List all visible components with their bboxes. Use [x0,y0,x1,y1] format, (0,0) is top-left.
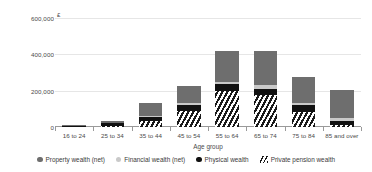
bar-segment [139,103,163,116]
legend-item-label: Physical wealth [205,156,249,163]
x-axis-tick-mark [323,127,324,131]
x-axis-tick-mark [170,127,171,131]
y-axis-tick-label: 400,000 [12,51,54,58]
bar-slot [246,18,284,127]
bar-segment [292,112,316,127]
legend-item-label: Financial wealth (net) [124,156,185,163]
bar-segment [292,77,316,102]
bar-slot [55,18,93,127]
x-axis-title: Age group [55,143,361,150]
bar-slot [93,18,131,127]
chart-legend: Property wealth (net)Financial wealth (n… [0,156,372,163]
x-axis-tick-label: 85 and over [323,132,361,139]
x-axis-tick-mark [132,127,133,131]
x-axis-tick-label: 35 to 44 [132,132,170,139]
y-axis-tick-label: 600,000 [12,15,54,22]
x-axis-tick-mark [55,127,56,131]
y-axis-currency-symbol: £ [57,11,60,18]
stacked-bar[interactable] [292,77,316,127]
bar-slot [285,18,323,127]
legend-dot-icon-financial [116,157,122,163]
legend-item[interactable]: Private pension wealth [260,156,335,163]
bar-slot [170,18,208,127]
legend-dot-icon-physical [196,157,202,163]
x-axis-tick-mark [246,127,247,131]
x-axis-tick-mark [93,127,94,131]
x-axis-tick-label: 65 to 74 [246,132,284,139]
legend-item[interactable]: Financial wealth (net) [116,156,185,163]
stacked-bar[interactable] [215,51,239,127]
bar-segment [215,51,239,82]
bar-segment [177,86,201,103]
legend-item-label: Private pension wealth [271,156,335,163]
wealth-by-age-group-chart: £ 0200,000400,000600,000 16 to 2425 to 3… [0,0,372,172]
bar-segment [215,91,239,127]
stacked-bar[interactable] [254,51,278,127]
bar-segment [177,111,201,127]
legend-item[interactable]: Property wealth (net) [37,156,105,163]
x-axis-tick-mark [208,127,209,131]
bar-slot [132,18,170,127]
x-axis-tick-labels: 16 to 2425 to 3435 to 4445 to 5455 to 64… [55,132,361,139]
stacked-bar[interactable] [139,103,163,127]
legend-dot-icon-property [37,157,43,163]
x-axis-tick-label: 45 to 54 [170,132,208,139]
x-axis-tick-label: 16 to 24 [55,132,93,139]
y-axis-tick-label: 200,000 [12,87,54,94]
bar-slot [323,18,361,127]
stacked-bar[interactable] [177,86,201,127]
legend-item[interactable]: Physical wealth [196,156,249,163]
y-axis-tick-label: 0 [12,124,54,131]
legend-hatch-icon-pension [260,156,268,163]
bar-series-group [55,18,361,127]
plot-area [55,18,361,127]
bar-slot [208,18,246,127]
x-axis-tick-label: 55 to 64 [208,132,246,139]
x-axis-tick-mark [361,127,362,131]
x-axis-tick-label: 75 to 84 [285,132,323,139]
bar-segment [254,95,278,127]
x-axis-tick-mark [285,127,286,131]
x-axis-tick-marks [55,127,361,131]
x-axis-tick-label: 25 to 34 [93,132,131,139]
bar-segment [254,51,278,85]
stacked-bar[interactable] [330,90,354,127]
bar-segment [330,90,354,118]
legend-item-label: Property wealth (net) [46,156,105,163]
